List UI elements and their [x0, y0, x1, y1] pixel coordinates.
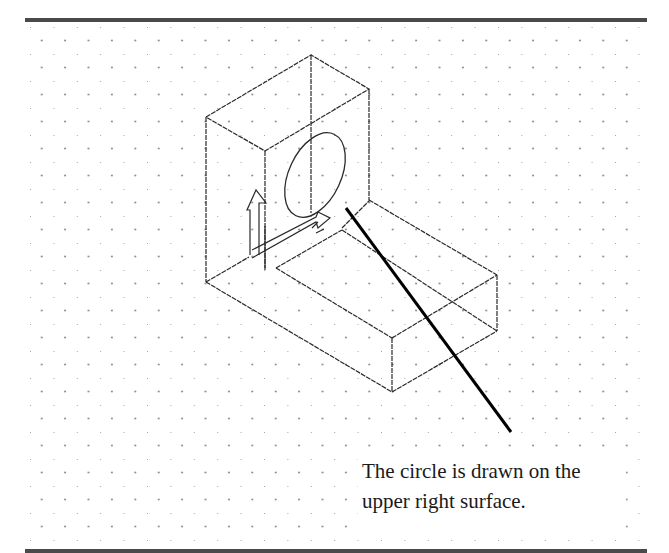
callout-text: The circle is drawn on the upper right s… [358, 452, 626, 536]
callout-line-1: The circle is drawn on the [362, 456, 626, 486]
callout-line-2: upper right surface. [362, 486, 626, 516]
bottom-rule [25, 549, 647, 553]
